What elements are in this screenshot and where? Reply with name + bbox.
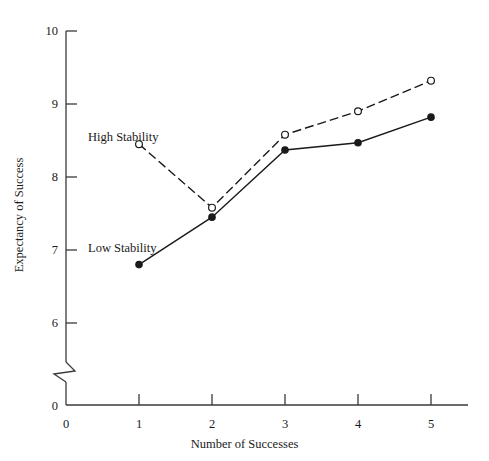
y-tick-label-zero: 0 [18, 400, 58, 413]
chart-plot-area [0, 0, 489, 461]
data-point-marker [428, 77, 435, 84]
series-line-2 [139, 117, 431, 264]
data-point-marker [428, 114, 434, 120]
x-tick-label: 3 [282, 418, 288, 431]
data-point-marker [209, 204, 216, 211]
data-point-marker [136, 261, 142, 267]
axis-lines [54, 31, 468, 405]
data-point-marker [282, 147, 288, 153]
data-series-group [136, 77, 435, 268]
data-point-marker [209, 214, 215, 220]
y-axis-title-text: Expectancy of Success [12, 158, 27, 273]
x-tick-label: 2 [209, 418, 215, 431]
y-tick-label: 6 [18, 317, 58, 330]
y-tick-label: 10 [18, 25, 58, 38]
data-point-marker [355, 139, 361, 145]
series-label-2: Low Stability [88, 241, 156, 256]
y-tick-label: 9 [18, 98, 58, 111]
series-label-1: High Stability [88, 130, 159, 145]
x-tick-label: 4 [355, 418, 361, 431]
chart-figure: 1098760 012345 Number of Successes Expec… [0, 0, 489, 461]
x-tick-label: 5 [428, 418, 434, 431]
x-tick-label: 1 [136, 418, 142, 431]
x-tick-label: 0 [63, 418, 69, 431]
series-line-1 [139, 81, 431, 208]
data-point-marker [355, 108, 362, 115]
tick-marks [66, 31, 431, 405]
x-axis-title: Number of Successes [0, 437, 489, 452]
data-point-marker [282, 131, 289, 138]
